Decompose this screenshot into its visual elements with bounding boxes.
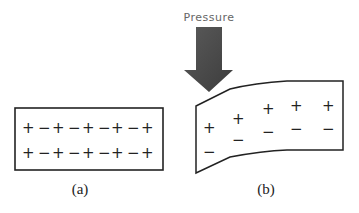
panel-a-label: (a): [72, 181, 89, 198]
charge-minus: −: [232, 131, 245, 149]
pressure-label: Pressure: [184, 11, 235, 24]
charge-minus: −: [68, 119, 81, 137]
charge-row-1: + − + − + − + − +: [22, 119, 154, 137]
charge-minus: −: [322, 120, 335, 138]
charge-minus: −: [262, 123, 275, 141]
charge-plus: +: [141, 119, 154, 137]
charge-minus: −: [38, 119, 51, 137]
charge-minus: −: [68, 144, 81, 162]
charge-row-2: + − + − + − + − +: [22, 144, 154, 162]
panel-b-label: (b): [257, 181, 275, 198]
charge-plus: +: [203, 119, 216, 137]
charge-minus: −: [127, 119, 140, 137]
charge-minus-row: − − − − −: [203, 120, 335, 161]
charge-minus: −: [98, 119, 111, 137]
charge-plus: +: [111, 119, 124, 137]
charge-plus: +: [52, 119, 65, 137]
charge-plus: +: [232, 110, 245, 128]
charge-minus: −: [290, 120, 303, 138]
charge-plus: +: [22, 119, 35, 137]
charge-plus: +: [82, 144, 95, 162]
charge-minus: −: [127, 144, 140, 162]
charge-plus: +: [322, 97, 335, 115]
piezoelectric-diagram: + − + − + − + − + + − + − + − + − + (a) …: [0, 0, 359, 213]
panel-b: Pressure + + + + + − − − − − (b): [184, 11, 343, 198]
charge-plus: +: [52, 144, 65, 162]
charge-minus: −: [38, 144, 51, 162]
panel-a: + − + − + − + − + + − + − + − + − + (a): [15, 108, 163, 198]
charge-plus: +: [82, 119, 95, 137]
charge-plus: +: [111, 144, 124, 162]
charge-plus: +: [290, 97, 303, 115]
charge-plus: +: [141, 144, 154, 162]
charge-plus: +: [22, 144, 35, 162]
charge-plus: +: [262, 100, 275, 118]
charge-minus: −: [98, 144, 111, 162]
charge-minus: −: [203, 143, 216, 161]
pressure-arrow-icon: [184, 27, 233, 92]
